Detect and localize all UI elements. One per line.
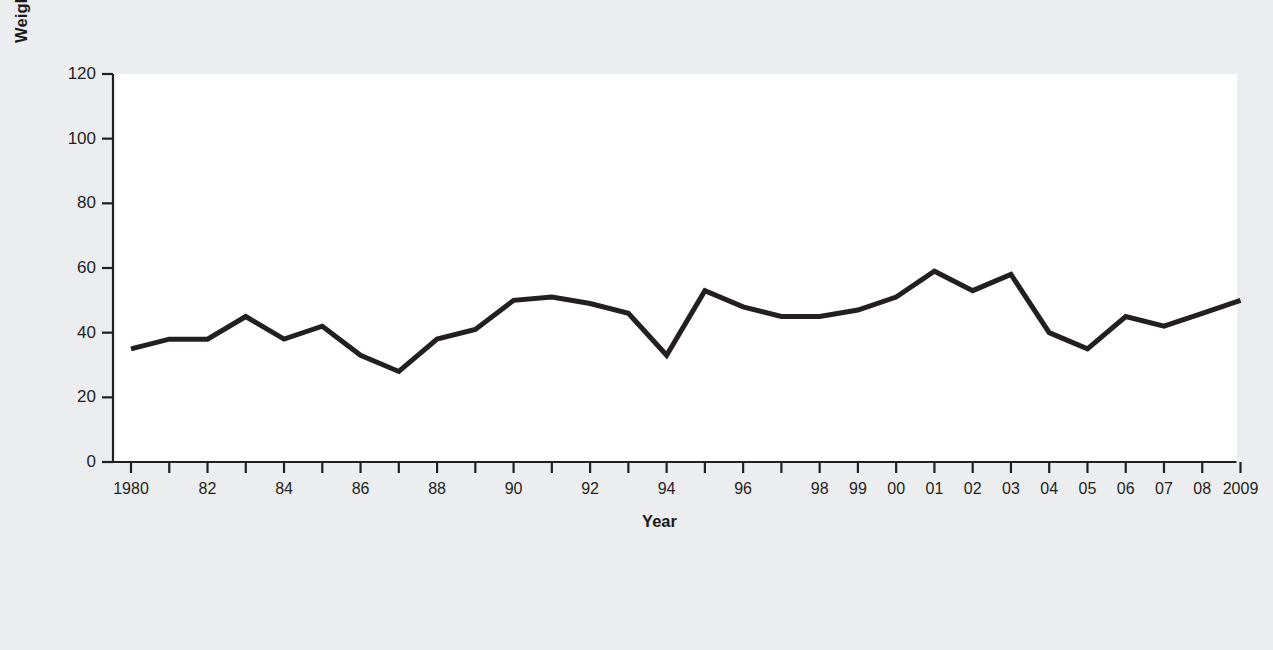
y-tick-label: 100 [48,130,96,147]
x-tick-label: 96 [703,481,783,497]
y-tick-label: 60 [48,259,96,276]
y-tick-label: 40 [48,324,96,341]
x-tick-label: 86 [321,481,401,497]
x-tick-label: 90 [474,481,554,497]
x-tick-label: 94 [627,481,707,497]
x-tick-label: 84 [244,481,324,497]
y-tick-label: 0 [48,453,96,470]
x-tick-label: 1980 [91,481,171,497]
chart-canvas [0,0,1273,650]
x-tick-label: 82 [168,481,248,497]
x-tick-label: 2009 [1201,481,1273,497]
y-tick-label: 80 [48,194,96,211]
y-tick-label: 120 [48,65,96,82]
x-tick-label: 88 [397,481,477,497]
y-tick-label: 20 [48,388,96,405]
x-tick-label: 92 [550,481,630,497]
data-series-line [131,271,1241,371]
chart-figure: Weighted Average Maturity in Days Year 0… [0,0,1273,650]
